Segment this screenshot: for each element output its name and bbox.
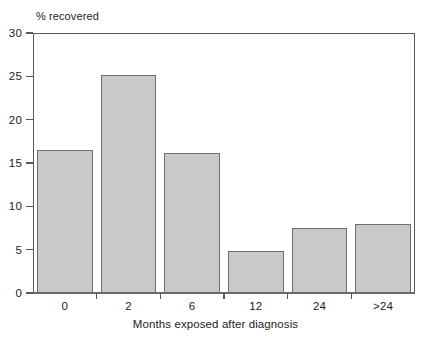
x-axis-tick-label: 0 — [62, 300, 69, 312]
y-axis-tick-label: 10 — [9, 200, 22, 212]
bar — [164, 153, 220, 293]
y-axis-tick: 15 — [26, 162, 33, 163]
y-axis-tick: 30 — [26, 32, 33, 33]
bar-chart-figure: % recovered 051015202530 0261224>24 Mont… — [0, 0, 431, 341]
x-axis-tick — [96, 293, 97, 299]
y-axis-tick-label: 5 — [15, 243, 22, 255]
y-axis-tick: 5 — [26, 249, 33, 250]
x-axis-tick — [223, 293, 224, 299]
y-axis-tick-label: 0 — [15, 287, 22, 299]
y-axis-tick: 10 — [26, 206, 33, 207]
x-axis-tick — [287, 293, 288, 299]
bar — [37, 150, 93, 293]
y-axis-title: % recovered — [36, 10, 99, 22]
y-axis-tick: 0 — [26, 292, 33, 293]
bar — [355, 224, 411, 293]
x-axis-title: Months exposed after diagnosis — [0, 318, 431, 330]
x-axis-tick-label: 6 — [189, 300, 196, 312]
x-axis-tick-label: 2 — [125, 300, 132, 312]
x-axis-tick — [160, 293, 161, 299]
bar — [228, 251, 284, 293]
y-axis-tick-label: 30 — [9, 27, 22, 39]
x-axis-tick — [351, 293, 352, 299]
y-axis-tick-label: 20 — [9, 113, 22, 125]
x-axis-tick-label: 12 — [249, 300, 262, 312]
x-axis-tick-label: >24 — [373, 300, 393, 312]
bar — [101, 75, 157, 293]
x-axis-tick-label: 24 — [313, 300, 326, 312]
y-axis-tick: 25 — [26, 76, 33, 77]
y-axis-tick-label: 15 — [9, 157, 22, 169]
bars-layer — [33, 33, 415, 293]
y-axis-tick: 20 — [26, 119, 33, 120]
bar — [292, 228, 348, 293]
y-axis-tick-label: 25 — [9, 70, 22, 82]
